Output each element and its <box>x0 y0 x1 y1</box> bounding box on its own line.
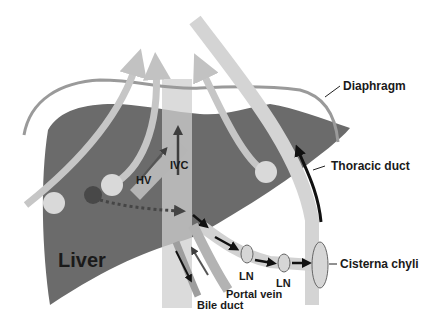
lymph-node-1 <box>241 245 253 263</box>
node-origin-middle <box>101 174 123 196</box>
thoracic-duct-pointer <box>313 166 325 170</box>
node-origin-left <box>43 192 65 214</box>
label-ln-1: LN <box>239 270 254 282</box>
lymph-node-2 <box>278 254 290 272</box>
label-bile-duct: Bile duct <box>197 299 244 311</box>
label-thoracic-duct: Thoracic duct <box>331 159 410 173</box>
diaphragm-pointer <box>325 86 340 97</box>
liver-lymph-diagram: Diaphragm Thoracic duct Cisterna chyli L… <box>0 0 430 331</box>
dark-spot <box>84 186 102 204</box>
label-liver: Liver <box>58 249 106 271</box>
label-cisterna-chyli: Cisterna chyli <box>340 257 419 271</box>
cisterna-chyli-shape <box>312 242 328 288</box>
label-diaphragm: Diaphragm <box>343 79 406 93</box>
label-ivc: IVC <box>170 159 188 171</box>
label-hv: HV <box>136 174 152 186</box>
diagram-canvas: Diaphragm Thoracic duct Cisterna chyli L… <box>0 0 430 331</box>
node-origin-right <box>255 161 277 183</box>
